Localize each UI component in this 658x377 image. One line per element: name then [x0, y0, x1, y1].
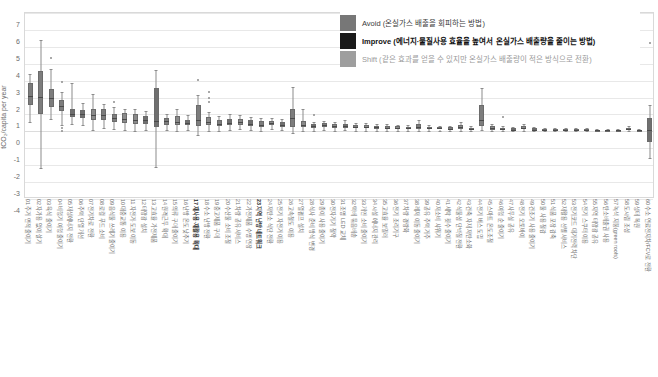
- x-tick-label: 15 의류 구매 줄이기: [172, 199, 178, 245]
- x-tick-label: 17 재사용·재활용 확대: [193, 199, 199, 250]
- cap-upper: [207, 112, 210, 113]
- median-line: [416, 127, 421, 128]
- legend: Avoid (온실가스 배출을 회피하는 방법)Improve (에너지·물질사…: [340, 12, 640, 70]
- whisker-upper: [40, 40, 41, 71]
- cap-lower: [480, 130, 483, 131]
- x-tick-label: 50 물 사용 절감: [540, 199, 546, 235]
- whisker-upper: [303, 109, 304, 122]
- x-axis: 01 주거 면적 줄이기02 자가용 없이 살기03 육식 줄이기04 비행기 …: [24, 199, 654, 329]
- boxplot-avoid: [164, 13, 169, 199]
- median-line: [605, 130, 610, 131]
- median-line: [206, 122, 211, 123]
- whisker-lower: [30, 105, 31, 122]
- median-line: [301, 125, 306, 126]
- outlier-point: [208, 101, 210, 103]
- median-line: [332, 126, 337, 127]
- x-tick-label: 56 탄소배출권 사용: [603, 199, 609, 243]
- whisker-upper: [114, 107, 115, 114]
- cap-lower: [585, 131, 588, 132]
- y-tick-label: 1: [16, 122, 20, 129]
- cap-lower: [260, 131, 263, 132]
- legend-item-shift[interactable]: Shift (같은 효과를 얻을 수 있지만 온실가스 배출량이 적은 방식으로…: [340, 50, 640, 68]
- cap-upper: [39, 40, 42, 41]
- cap-lower: [575, 131, 578, 132]
- cap-lower: [627, 131, 630, 132]
- x-tick-label: 25 전기 자전거 이용: [277, 199, 283, 245]
- cap-lower: [375, 131, 378, 132]
- y-tick-label: 2: [16, 105, 20, 112]
- cap-upper: [291, 87, 294, 88]
- whisker-upper: [72, 83, 73, 109]
- median-line: [248, 124, 253, 125]
- x-tick-label: 22 가전제품 수명 연장: [246, 199, 252, 250]
- cap-lower: [449, 131, 452, 132]
- cap-upper: [29, 74, 32, 75]
- cap-lower: [470, 131, 473, 132]
- box: [479, 105, 484, 126]
- boxplot-avoid: [112, 13, 117, 199]
- legend-swatch-avoid: [340, 15, 356, 31]
- boxplot-shift: [301, 13, 306, 199]
- median-line: [196, 120, 201, 121]
- x-tick-label: 58 도시림 조성: [624, 199, 630, 233]
- x-tick-label: 53 전기코드 대기전력 차단: [571, 199, 577, 260]
- y-tick-label: -2: [14, 173, 20, 180]
- x-tick-label: 46 여행 순 줄이기: [498, 199, 504, 240]
- y-tick-label: -1: [14, 156, 20, 163]
- x-tick-label: 59 생태 복원: [634, 199, 640, 228]
- cap-lower: [533, 131, 536, 132]
- median-line: [238, 122, 243, 123]
- whisker-upper: [481, 88, 482, 105]
- whisker-lower: [114, 122, 115, 129]
- cap-lower: [186, 130, 189, 131]
- whisker-upper: [51, 69, 52, 89]
- cap-lower: [60, 125, 63, 126]
- whisker-lower: [135, 124, 136, 131]
- whisker-upper: [82, 103, 83, 111]
- boxplot-avoid: [28, 13, 33, 199]
- median-line: [595, 130, 600, 131]
- cap-upper: [71, 83, 74, 84]
- y-axis: tCO₂/capita per year 76543210-1-2-3-4: [0, 12, 24, 198]
- x-tick-label: 54 전기 스쿠터 이용: [582, 199, 588, 245]
- cap-lower: [29, 122, 32, 123]
- cap-lower: [102, 128, 105, 129]
- cap-lower: [134, 131, 137, 132]
- x-tick-label: 36 전기 조리기구: [393, 199, 399, 238]
- cap-lower: [81, 125, 84, 126]
- x-tick-label: 07 전기차로 전환: [88, 199, 94, 238]
- cap-upper: [113, 107, 116, 108]
- cap-lower: [501, 131, 504, 132]
- cap-lower: [39, 168, 42, 169]
- legend-swatch-improve: [340, 33, 356, 49]
- cap-lower: [365, 131, 368, 132]
- median-line: [437, 128, 442, 129]
- x-tick-label: 51 식품 포장 감축: [550, 199, 556, 240]
- y-tick-label: 6: [16, 37, 20, 44]
- median-line: [584, 130, 589, 131]
- boxplot-shift: [269, 13, 274, 199]
- boxplot-improve: [154, 13, 159, 199]
- legend-label-improve: Improve (에너지·물질사용 효율을 높여서 온실가스 배출량을 줄이는 …: [362, 37, 595, 46]
- cap-lower: [270, 129, 273, 130]
- whisker-lower: [649, 142, 650, 158]
- legend-item-improve[interactable]: Improve (에너지·물질사용 효율을 높여서 온실가스 배출량을 줄이는 …: [340, 32, 640, 50]
- cap-lower: [176, 131, 179, 132]
- median-line: [101, 115, 106, 116]
- outlier-point: [502, 116, 504, 118]
- median-line: [647, 130, 652, 131]
- whisker-lower: [93, 120, 94, 129]
- legend-item-avoid[interactable]: Avoid (온실가스 배출을 회피하는 방법): [340, 14, 640, 32]
- y-tick-label: -3: [14, 190, 20, 197]
- x-tick-label: 35 고효율 보일러: [382, 199, 388, 238]
- median-line: [322, 125, 327, 126]
- boxplot-improve: [227, 13, 232, 199]
- cap-lower: [165, 130, 168, 131]
- cap-lower: [302, 131, 305, 132]
- median-line: [469, 129, 474, 130]
- median-line: [427, 128, 432, 129]
- y-tick-label: 3: [16, 88, 20, 95]
- outlier-point: [113, 101, 115, 103]
- x-tick-label: 21 차량 공유 서비스: [235, 199, 241, 245]
- cap-upper: [197, 95, 200, 96]
